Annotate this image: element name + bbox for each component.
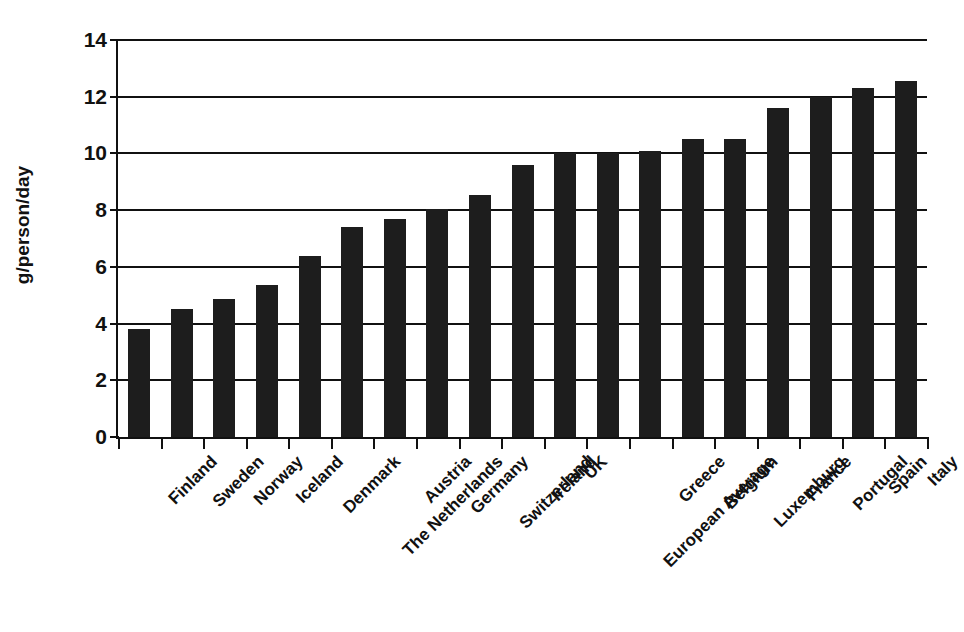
bar [767,108,789,437]
bar [171,309,193,437]
x-tick-mark [416,437,418,449]
bar [810,97,832,437]
bar [128,329,150,437]
bar [639,151,661,437]
x-tick-mark [161,437,163,449]
y-tick-mark [110,266,119,268]
bar [682,139,704,437]
y-tick-label: 6 [95,255,107,279]
x-tick-mark [757,437,759,449]
gridline [118,152,927,154]
x-tick-mark [373,437,375,449]
x-tick-mark [331,437,333,449]
bar [341,227,363,437]
bar [384,219,406,437]
y-tick-mark [110,96,119,98]
x-tick-mark [118,437,120,449]
y-tick-label: 10 [84,141,107,165]
bar [256,285,278,437]
x-tick-label: Denmark [339,452,405,518]
bar [597,153,619,437]
bar [469,195,491,437]
y-tick-label: 12 [84,85,107,109]
y-tick-mark [110,39,119,41]
x-tick-mark [246,437,248,449]
x-tick-mark [459,437,461,449]
x-tick-mark [629,437,631,449]
x-tick-mark [927,437,929,449]
x-tick-mark [799,437,801,449]
x-tick-mark [501,437,503,449]
y-tick-label: 0 [95,425,107,449]
y-tick-mark [110,152,119,154]
plot-area: 02468101214 [116,40,927,439]
y-tick-mark [110,209,119,211]
bar-chart: g/person/day 02468101214 FinlandSwedenNo… [0,0,964,632]
bar [426,209,448,437]
bar [852,88,874,437]
x-tick-label: Belgium [720,452,782,514]
y-tick-label: 14 [84,28,107,52]
bar [895,81,917,437]
x-tick-mark [288,437,290,449]
x-axis-labels: FinlandSwedenNorwayIcelandDenmarkThe Net… [116,452,925,632]
x-tick-mark [672,437,674,449]
y-axis-title: g/person/day [0,0,46,450]
bar [724,139,746,437]
bar [299,256,321,437]
y-tick-label: 2 [95,368,107,392]
y-tick-label: 8 [95,198,107,222]
x-tick-mark [884,437,886,449]
x-tick-mark [544,437,546,449]
x-tick-mark [203,437,205,449]
gridline [118,39,927,41]
x-tick-label: Italy [924,452,962,490]
bar [213,299,235,437]
bar [512,165,534,437]
x-tick-mark [586,437,588,449]
x-tick-mark [842,437,844,449]
x-tick-mark [714,437,716,449]
gridline [118,96,927,98]
y-tick-mark [110,323,119,325]
y-tick-mark [110,379,119,381]
bar [554,153,576,437]
y-axis-title-text: g/person/day [12,166,34,284]
y-tick-label: 4 [95,312,107,336]
